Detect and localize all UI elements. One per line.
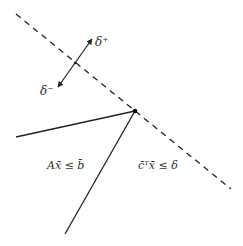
feasible-region-label: Ax̄ ≤ b̄ (46, 159, 84, 172)
delta-minus-label: δ⁻ (40, 84, 54, 98)
lower-constraint-edge (65, 111, 135, 234)
lp-diagram: δ⁺ δ⁻ Ax̄ ≤ b̄ c̄ᵀx̄ ≤ δ (0, 0, 243, 246)
objective-halfspace-label: c̄ᵀx̄ ≤ δ (138, 159, 178, 172)
optimal-vertex (133, 109, 138, 114)
delta-plus-label: δ⁺ (95, 35, 109, 49)
left-constraint-edge (16, 111, 135, 137)
arrow-crossing-point (74, 62, 77, 65)
